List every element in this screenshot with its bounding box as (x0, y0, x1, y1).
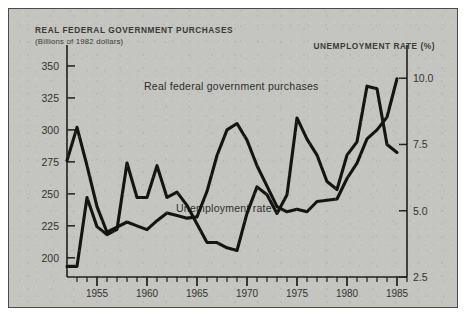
x-tick-label-1965: 1965 (186, 288, 208, 299)
y-tick-label-left-250: 250 (41, 188, 59, 200)
y-tick-label-left-350: 350 (41, 60, 59, 72)
x-tick-label-1985: 1985 (386, 288, 408, 299)
y-tick-label-left-325: 325 (41, 92, 59, 104)
y-axis-ticks-right (399, 78, 407, 277)
y-tick-label-right-7.5: 7.5 (413, 138, 428, 150)
y-tick-label-left-275: 275 (41, 156, 59, 168)
x-tick-label-1980: 1980 (336, 288, 358, 299)
x-axis-ticks (77, 277, 407, 286)
figure-root: REAL FEDERAL GOVERNMENT PURCHASES (Billi… (0, 0, 466, 316)
y-tick-label-right-2.5: 2.5 (413, 271, 428, 283)
y-tick-label-left-225: 225 (41, 220, 59, 232)
y-tick-label-right-10.0: 10.0 (413, 72, 433, 84)
plot-area (9, 9, 457, 307)
x-tick-label-1955: 1955 (86, 288, 108, 299)
x-tick-label-1970: 1970 (236, 288, 258, 299)
y-tick-label-left-200: 200 (41, 252, 59, 264)
x-tick-label-1975: 1975 (286, 288, 308, 299)
y-tick-label-right-5.0: 5.0 (413, 205, 428, 217)
chart-plate: REAL FEDERAL GOVERNMENT PURCHASES (Billi… (8, 8, 458, 308)
axis-lines (67, 45, 407, 277)
y-tick-label-left-300: 300 (41, 124, 59, 136)
x-tick-label-1960: 1960 (136, 288, 158, 299)
y-axis-ticks-left (67, 66, 75, 258)
